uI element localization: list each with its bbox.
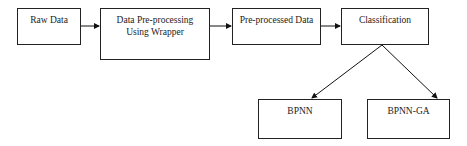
arrow-classification-to-bpnn <box>312 45 382 98</box>
node-label: Raw Data <box>30 15 68 25</box>
node-label: BPNN-GA <box>387 106 429 116</box>
node-classification: Classification <box>341 8 429 45</box>
node-raw-data: Raw Data <box>17 8 81 45</box>
node-label: Pre-processed Data <box>240 15 314 25</box>
node-bpnn-ga: BPNN-GA <box>367 99 450 139</box>
arrow-classification-to-bpnnga <box>382 45 437 98</box>
node-label-line1: Data Pre-processing <box>101 14 209 26</box>
node-data-preprocessing: Data Pre-processing Using Wrapper <box>100 8 210 60</box>
node-label: BPNN <box>287 106 312 116</box>
node-label: Classification <box>359 15 411 25</box>
node-bpnn: BPNN <box>258 99 342 139</box>
node-preprocessed-data: Pre-processed Data <box>232 8 321 45</box>
node-label-line2: Using Wrapper <box>101 26 209 38</box>
